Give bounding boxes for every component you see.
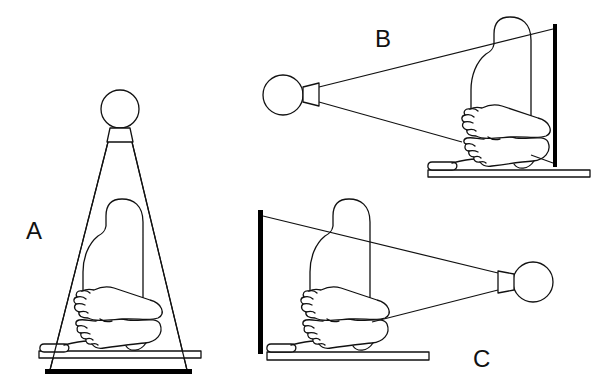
detector-plate (258, 210, 263, 354)
radiation-source (263, 75, 303, 115)
collimator (303, 83, 319, 106)
patient-figure (428, 17, 550, 170)
patient-table (428, 170, 590, 177)
beam-line-top (263, 216, 498, 273)
imaging-geometry-diagram: A B C (0, 0, 608, 389)
collimator (107, 128, 133, 142)
detector-plate (45, 369, 192, 374)
panel-b (263, 17, 590, 177)
panel-label-a: A (26, 219, 42, 243)
diagram-canvas (0, 0, 608, 389)
collimator (498, 271, 514, 293)
radiation-source (513, 262, 553, 302)
panel-label-c: C (473, 347, 490, 371)
panel-c (258, 199, 553, 360)
panel-label-b: B (375, 27, 391, 51)
patient-figure (40, 199, 162, 352)
radiation-source (101, 90, 139, 128)
panel-a (39, 90, 201, 374)
beam-line-bottom (319, 102, 462, 142)
beam-line-bottom (372, 290, 498, 322)
detector-plate (553, 24, 557, 167)
patient-table (267, 352, 429, 360)
